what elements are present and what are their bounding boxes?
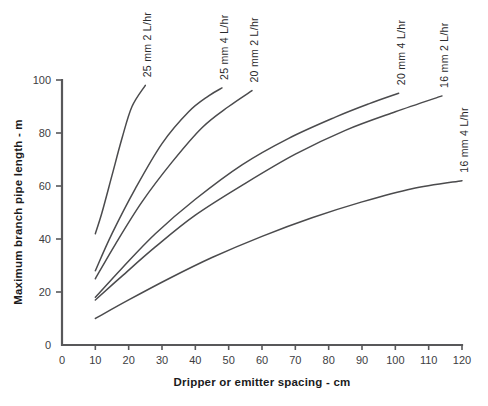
y-tick-label: 40 — [39, 233, 51, 245]
series-curve — [95, 85, 145, 233]
y-tick-label: 80 — [39, 127, 51, 139]
curves-group — [95, 85, 462, 318]
x-tick-label: 80 — [323, 354, 335, 366]
series-label: 20 mm 2 L/hr — [248, 17, 260, 83]
y-tick-label: 20 — [39, 286, 51, 298]
ticks-group — [56, 80, 462, 350]
y-axis-title: Maximum branch pipe length - m — [12, 119, 24, 305]
series-curve — [95, 181, 462, 319]
series-label: 20 mm 4 L/hr — [395, 20, 407, 86]
y-tick-label: 100 — [33, 74, 51, 86]
series-label: 25 mm 2 L/hr — [141, 12, 153, 78]
series-label: 16 mm 2 L/hr — [438, 22, 450, 88]
x-tick-label: 10 — [89, 354, 101, 366]
y-tick-label: 0 — [45, 339, 51, 351]
series-curve — [95, 96, 442, 300]
x-tick-label: 20 — [123, 354, 135, 366]
x-tick-label: 120 — [453, 354, 471, 366]
series-label: 25 mm 4 L/hr — [218, 14, 230, 80]
x-tick-label: 50 — [223, 354, 235, 366]
x-axis-title: Dripper or emitter spacing - cm — [174, 376, 351, 388]
x-tick-label: 40 — [189, 354, 201, 366]
tick-labels-group: 0204060801000102030405060708090100110120 — [33, 74, 472, 366]
x-tick-label: 60 — [256, 354, 268, 366]
y-tick-label: 60 — [39, 180, 51, 192]
series-label: 16 mm 4 L/hr — [458, 107, 470, 173]
x-tick-label: 70 — [289, 354, 301, 366]
x-tick-label: 30 — [156, 354, 168, 366]
chart-page: 0204060801000102030405060708090100110120… — [0, 0, 488, 406]
pipe-length-chart: 0204060801000102030405060708090100110120… — [0, 0, 488, 406]
x-tick-label: 100 — [386, 354, 404, 366]
x-tick-label: 0 — [59, 354, 65, 366]
series-curve — [95, 93, 398, 297]
x-tick-label: 110 — [420, 354, 438, 366]
x-tick-label: 90 — [356, 354, 368, 366]
